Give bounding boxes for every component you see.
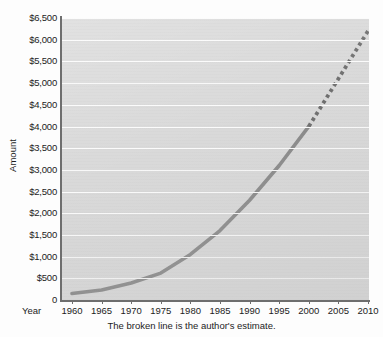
x-tick <box>309 300 310 304</box>
gridline <box>61 170 369 171</box>
y-tick-label: $5,500 <box>5 55 57 66</box>
figure-caption: The broken line is the author's estimate… <box>0 320 383 331</box>
y-tick-label: $6,000 <box>5 34 57 45</box>
y-axis-line <box>60 16 62 302</box>
gridline <box>61 235 369 236</box>
chart-figure: 0$500$1,000$1,500$2,000$2,500$3,000$3,50… <box>0 0 383 337</box>
y-tick-label: $1,500 <box>5 229 57 240</box>
y-tick-label: $500 <box>5 272 57 283</box>
x-tick <box>72 300 73 304</box>
gridline <box>61 257 369 258</box>
y-tick-label: $5,000 <box>5 77 57 88</box>
gridline <box>61 105 369 106</box>
x-axis-title: Year <box>22 305 41 316</box>
gridline <box>61 40 369 41</box>
gridlines-group <box>61 18 369 300</box>
gridline <box>61 192 369 193</box>
gridline <box>61 83 369 84</box>
gridline <box>61 148 369 149</box>
y-tick-label: 0 <box>5 294 57 305</box>
x-tick <box>190 300 191 304</box>
x-tick <box>338 300 339 304</box>
y-axis-title: Amount <box>7 128 18 184</box>
x-axis-line <box>60 300 370 302</box>
gridline <box>61 213 369 214</box>
y-tick-label: $6,500 <box>5 12 57 23</box>
y-tick-label: $2,500 <box>5 186 57 197</box>
x-tick <box>250 300 251 304</box>
y-tick-label: $2,000 <box>5 207 57 218</box>
gridline <box>61 61 369 62</box>
x-tick <box>102 300 103 304</box>
gridline <box>61 278 369 279</box>
x-tick <box>368 300 369 304</box>
x-tick <box>279 300 280 304</box>
y-tick-label: $1,000 <box>5 251 57 262</box>
gridline <box>61 127 369 128</box>
x-tick <box>161 300 162 304</box>
gridline <box>61 18 369 19</box>
x-tick <box>220 300 221 304</box>
y-tick-label: $4,500 <box>5 99 57 110</box>
x-tick-label: 2010 <box>351 305 383 316</box>
plot-area <box>61 18 369 300</box>
x-tick <box>131 300 132 304</box>
